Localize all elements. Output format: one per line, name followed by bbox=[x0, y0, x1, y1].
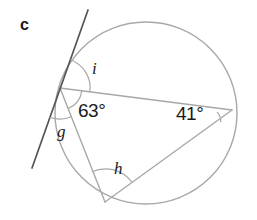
angle-label-g: g bbox=[57, 123, 66, 140]
geometry-diagram-svg bbox=[0, 0, 257, 220]
angle-label-i: i bbox=[92, 60, 97, 77]
arc-angle-i bbox=[71, 60, 91, 92]
arc-angle-h bbox=[92, 169, 132, 182]
angle-label-h: h bbox=[114, 160, 123, 177]
angle-label-63-degrees: 63° bbox=[78, 101, 105, 120]
angle-label-41-degrees: 41° bbox=[176, 104, 203, 123]
part-letter-label: c bbox=[20, 17, 29, 33]
arc-angle-g bbox=[50, 117, 72, 119]
geometry-figure: c i 63° g h 41° bbox=[0, 0, 257, 220]
chord-bottomvertex-to-rightvertex bbox=[105, 110, 232, 202]
